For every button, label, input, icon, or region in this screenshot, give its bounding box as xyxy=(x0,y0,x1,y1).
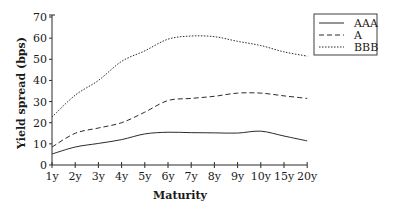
x-tick-label: 5y xyxy=(138,170,152,183)
y-tick-label: 30 xyxy=(33,96,47,109)
x-tick-label: 9y xyxy=(231,170,245,183)
x-tick-label: 15y xyxy=(274,170,295,183)
y-tick-label: 40 xyxy=(33,74,47,87)
x-tick-label: 3y xyxy=(92,170,106,183)
series-line-aaa xyxy=(52,131,307,154)
series-lines xyxy=(52,36,307,154)
x-tick-label: 6y xyxy=(161,170,175,183)
x-tick-label: 7y xyxy=(185,170,199,183)
y-tick-label: 70 xyxy=(33,11,47,24)
x-tick-label: 1y xyxy=(45,170,59,183)
x-tick-label: 20y xyxy=(297,170,318,183)
x-axis: 1y2y3y4y5y6y7y8y9y10y15y20y xyxy=(45,162,318,183)
y-tick-label: 60 xyxy=(33,32,47,45)
y-axis-title: Yield spread (bps) xyxy=(15,37,28,150)
x-tick-label: 2y xyxy=(69,170,83,183)
yield-spread-line-chart: 010203040506070 1y2y3y4y5y6y7y8y9y10y15y… xyxy=(0,0,393,211)
y-tick-label: 10 xyxy=(33,138,47,151)
x-tick-label: 10y xyxy=(251,170,272,183)
x-tick-label: 4y xyxy=(115,170,129,183)
series-line-a xyxy=(52,93,307,147)
y-axis: 010203040506070 xyxy=(33,11,55,172)
y-tick-label: 20 xyxy=(33,117,47,130)
x-axis-title: Maturity xyxy=(153,189,207,202)
y-tick-label: 50 xyxy=(33,53,47,66)
x-tick-label: 8y xyxy=(208,170,222,183)
legend-label-bbb: BBB xyxy=(354,41,378,54)
legend: AAA A BBB xyxy=(314,14,379,55)
series-line-bbb xyxy=(52,36,307,117)
